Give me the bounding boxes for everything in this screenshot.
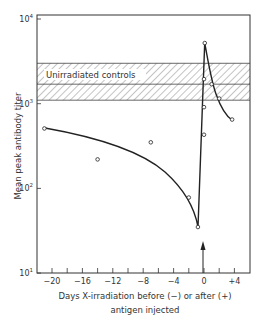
data-point	[202, 105, 206, 109]
plot-frame	[37, 15, 250, 273]
x-tick-label: −16	[74, 277, 91, 286]
x-axis-title-line2: antigen injected	[111, 305, 180, 315]
band-label: Unirradiated controls	[46, 70, 136, 80]
x-tick-label: −4	[168, 277, 180, 286]
x-tick-label: +4	[229, 277, 241, 286]
injection-arrow-icon	[201, 241, 206, 273]
x-axis-title-line1: Days X-irradiation before (−) or after (…	[58, 291, 231, 301]
data-point	[203, 41, 207, 45]
x-tick-label: −12	[104, 277, 121, 286]
data-point	[210, 82, 214, 86]
data-point	[202, 133, 206, 137]
x-tick-label: −20	[44, 277, 61, 286]
data-point	[202, 77, 206, 81]
chart: Unirradiated controls −20−16−12−8−40+4 1…	[0, 0, 261, 325]
unirradiated-controls-band: Unirradiated controls	[37, 63, 250, 100]
data-point	[43, 127, 47, 131]
y-tick-label: 101	[19, 267, 33, 278]
data-point	[187, 196, 191, 200]
data-point	[149, 141, 153, 145]
x-tick-label: 0	[201, 277, 206, 286]
x-axis-ticks: −20−16−12−8−40+4	[44, 268, 241, 286]
data-point	[217, 97, 221, 101]
y-axis-title: Mean peak antibody titer	[13, 92, 23, 200]
data-point	[96, 158, 100, 162]
data-point	[230, 118, 234, 122]
data-point	[196, 225, 200, 229]
y-tick-label: 104	[19, 13, 33, 24]
x-tick-label: −8	[137, 277, 149, 286]
